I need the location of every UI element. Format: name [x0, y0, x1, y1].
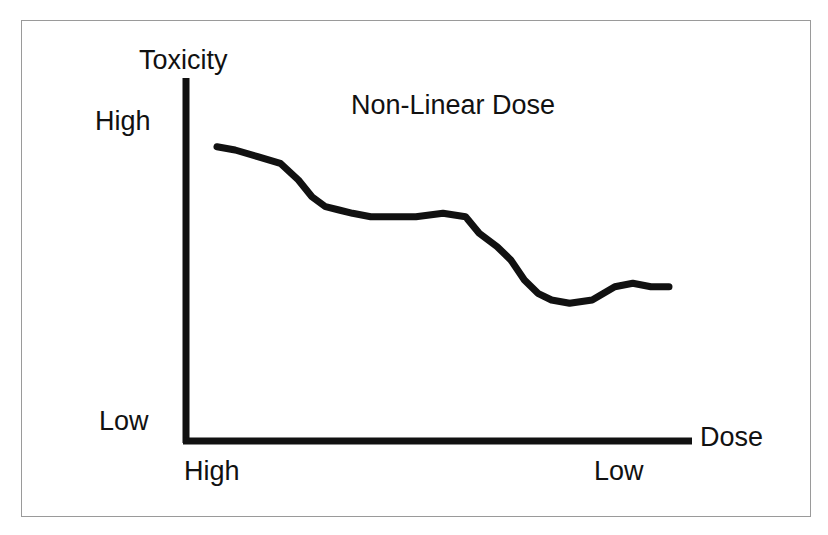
y-axis-tick-low: Low: [99, 408, 149, 435]
x-axis-title: Dose: [700, 424, 763, 451]
figure-root: Toxicity Non-Linear Dose Dose High Low H…: [0, 0, 828, 535]
chart-title: Non-Linear Dose: [351, 92, 555, 119]
data-series-toxicity-line: [217, 147, 669, 304]
x-axis-tick-high: High: [184, 458, 240, 485]
y-axis-title: Toxicity: [139, 47, 228, 74]
y-axis-tick-high: High: [95, 108, 151, 135]
x-axis-tick-low: Low: [594, 458, 644, 485]
chart-plot-area: [0, 0, 828, 535]
